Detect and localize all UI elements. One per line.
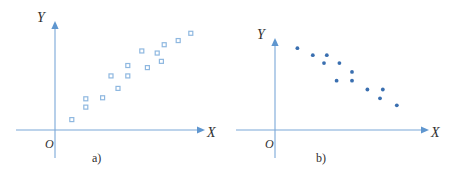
data-point	[116, 86, 120, 90]
data-point	[189, 31, 193, 35]
x-axis-label: X	[207, 126, 216, 140]
data-points-group-b	[296, 46, 399, 107]
data-point	[366, 88, 370, 92]
y-axis-label: Y	[257, 28, 265, 42]
data-point	[109, 74, 113, 78]
data-point	[378, 96, 382, 100]
data-point	[101, 96, 105, 100]
data-point	[350, 79, 354, 83]
y-axis-arrowhead	[271, 38, 278, 46]
data-point	[145, 66, 149, 70]
data-point	[140, 49, 144, 53]
y-axis-label: Y	[37, 11, 45, 25]
data-point	[176, 39, 180, 43]
data-point	[311, 53, 315, 57]
data-point	[350, 70, 354, 74]
panel-caption-b: b)	[316, 152, 326, 164]
x-axis-label: X	[431, 126, 440, 140]
scatter-panel-a: Y X O a)	[0, 0, 230, 180]
data-point	[126, 74, 130, 78]
data-point	[395, 103, 399, 107]
data-point	[296, 46, 300, 50]
data-point	[335, 79, 339, 83]
data-point	[84, 105, 88, 109]
panel-caption-a: a)	[92, 152, 101, 164]
data-point	[126, 64, 130, 68]
x-axis-arrowhead	[421, 126, 429, 133]
data-point	[155, 51, 159, 55]
origin-label: O	[265, 138, 274, 150]
data-point	[162, 43, 166, 47]
data-point	[325, 53, 329, 57]
data-point	[338, 61, 342, 65]
x-axis-arrowhead	[197, 126, 205, 133]
data-point	[322, 61, 326, 65]
data-points-group-a	[70, 31, 193, 121]
data-point	[159, 59, 163, 63]
scatter-plot-a	[0, 0, 230, 180]
data-point	[84, 97, 88, 101]
scatter-panel-b: Y X O b)	[230, 0, 460, 180]
figure-container: Y X O a) Y X O b)	[0, 0, 460, 180]
data-point	[70, 118, 74, 122]
origin-label: O	[45, 138, 54, 150]
y-axis-arrowhead	[51, 21, 58, 29]
data-point	[381, 88, 385, 92]
